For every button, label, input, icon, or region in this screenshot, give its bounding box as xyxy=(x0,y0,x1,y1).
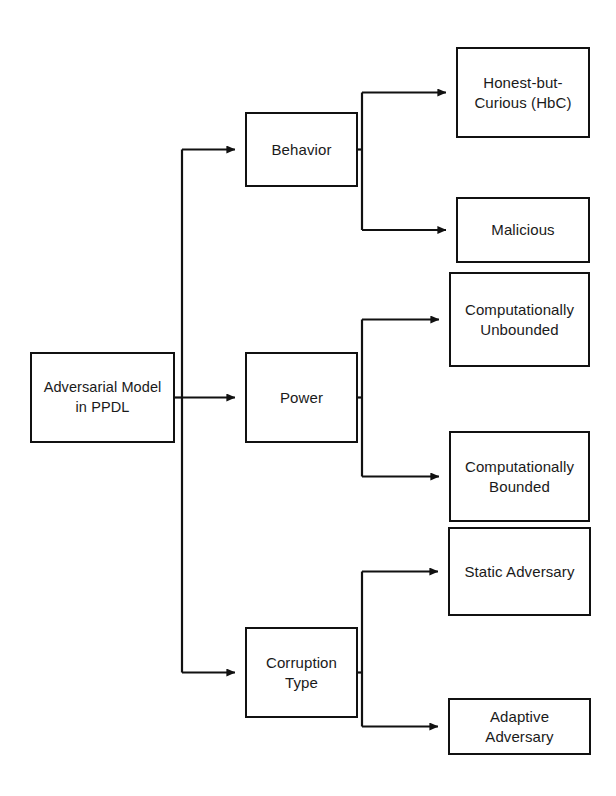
node-label: Power xyxy=(274,388,329,408)
node-honest-but-curious[interactable]: Honest-but- Curious (HbC) xyxy=(456,47,590,138)
node-computationally-bounded[interactable]: Computationally Bounded xyxy=(449,431,590,522)
node-static-adversary[interactable]: Static Adversary xyxy=(448,527,591,616)
node-label: Corruption Type xyxy=(260,653,343,693)
node-label: Computationally Bounded xyxy=(459,457,580,497)
node-malicious[interactable]: Malicious xyxy=(456,197,590,263)
node-behavior[interactable]: Behavior xyxy=(245,112,358,187)
node-computationally-unbounded[interactable]: Computationally Unbounded xyxy=(449,272,590,367)
node-label: Adversarial Model in PPDL xyxy=(38,378,168,416)
node-label: Computationally Unbounded xyxy=(459,300,580,340)
node-label: Behavior xyxy=(265,140,337,160)
node-corruption-type[interactable]: Corruption Type xyxy=(245,627,358,718)
node-power[interactable]: Power xyxy=(245,352,358,443)
node-label: Honest-but- Curious (HbC) xyxy=(468,73,577,113)
node-adaptive-adversary[interactable]: Adaptive Adversary xyxy=(448,698,591,755)
diagram-canvas: Adversarial Model in PPDL Behavior Hones… xyxy=(0,0,616,796)
node-label: Malicious xyxy=(485,220,560,240)
node-label: Adaptive Adversary xyxy=(450,707,589,747)
node-label: Static Adversary xyxy=(459,562,581,582)
node-adversarial-model-in-ppdl[interactable]: Adversarial Model in PPDL xyxy=(30,352,175,443)
